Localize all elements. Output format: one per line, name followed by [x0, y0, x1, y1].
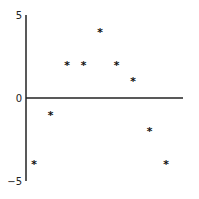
y-tick-label: −5: [7, 176, 22, 187]
y-tick-label: 5: [16, 10, 22, 21]
data-point-marker: *: [64, 59, 71, 72]
axes: [26, 15, 183, 181]
data-point-marker: *: [47, 109, 54, 122]
data-point-marker: *: [80, 59, 87, 72]
y-tick-labels: 50−5: [7, 10, 22, 187]
data-point-marker: *: [130, 75, 137, 88]
data-point-marker: *: [146, 125, 153, 138]
data-point-marker: *: [31, 158, 38, 171]
data-point-marker: *: [163, 158, 170, 171]
scatter-chart: 50−5 *********: [0, 0, 199, 199]
data-point-marker: *: [97, 26, 104, 39]
y-tick-label: 0: [16, 93, 22, 104]
data-point-marker: *: [113, 59, 120, 72]
